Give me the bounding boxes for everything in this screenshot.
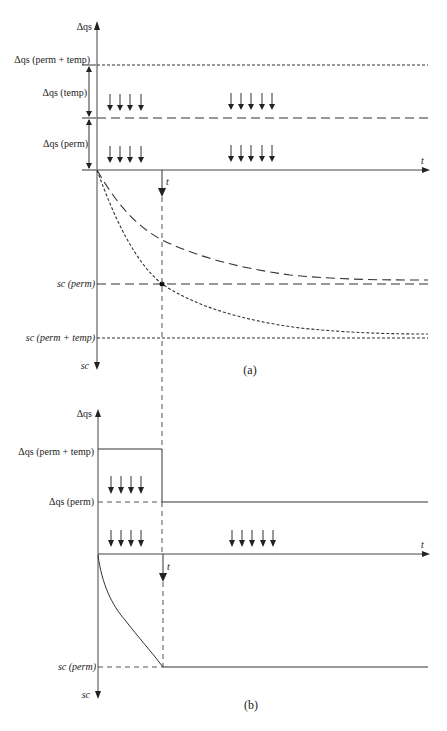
panel-a-label-load-perm: Δqs (perm) — [43, 138, 88, 150]
panel-a-sc-axis-label: sc — [81, 360, 90, 371]
panel-a-load-arrows-far-lower — [228, 145, 275, 162]
panel-b-dq-axis-label: Δqs — [77, 408, 92, 419]
panel-a-t-axis-label: t — [421, 155, 424, 166]
panel-a-label-settlement-perm-temp: sc (perm + temp) — [26, 332, 96, 344]
panel-b-time-marker-arrow-icon — [159, 573, 167, 582]
panel-b-label-load-perm: Δqs (perm) — [49, 496, 94, 508]
panel-a-caption: (a) — [243, 363, 256, 377]
panel-a-load-arrows-far-upper — [228, 93, 275, 110]
panel-b-y-axis-up-arrow-icon — [95, 409, 101, 417]
panel-b-t-axis-arrow-icon — [422, 551, 430, 557]
panel-b-caption: (b) — [244, 698, 258, 712]
panel-a-time-marker-arrow-icon — [158, 188, 166, 197]
panel-b: Δqs sc t Δqs (perm + temp) Δqs (perm) — [18, 408, 430, 712]
panel-b-load-arrows-near-lower — [108, 530, 144, 547]
panel-b-y-axis-down-arrow-icon — [95, 691, 101, 699]
panel-b-label-load-perm-temp: Δqs (perm + temp) — [18, 446, 94, 458]
panel-a-time-marker-label: t — [166, 176, 169, 187]
panel-a-settlement-curve-perm-temp — [97, 170, 428, 334]
panel-a-load-arrows-near-upper — [107, 94, 144, 111]
panel-a-label-load-temp: Δqs (temp) — [43, 87, 87, 99]
panel-a-t-axis-arrow-icon — [422, 167, 430, 173]
panel-b-settlement-curve — [98, 555, 163, 667]
settlement-diagram: Δqs sc t Δqs (perm + temp) Δqs (temp) Δq… — [0, 0, 447, 731]
panel-b-sc-axis-label: sc — [82, 689, 91, 700]
panel-a-y-axis-down-arrow-icon — [94, 362, 100, 370]
panel-a: Δqs sc t Δqs (perm + temp) Δqs (temp) Δq… — [14, 21, 430, 377]
panel-b-t-axis-label: t — [421, 539, 424, 550]
panel-b-load-arrows-far — [229, 530, 276, 547]
panel-b-load-arrows-near-upper — [108, 476, 144, 494]
panel-a-load-arrows-near-lower — [107, 146, 144, 163]
panel-a-label-load-perm-temp: Δqs (perm + temp) — [14, 54, 90, 66]
panel-a-y-axis-up-arrow-icon — [94, 21, 100, 30]
panel-b-label-settlement-perm: sc (perm) — [58, 661, 97, 673]
panel-a-dq-axis-label: Δqs — [77, 21, 92, 32]
panel-a-settlement-curve-perm — [97, 170, 428, 280]
panel-a-label-settlement-perm: sc (perm) — [57, 278, 96, 290]
panel-b-time-marker-label: t — [167, 561, 170, 572]
